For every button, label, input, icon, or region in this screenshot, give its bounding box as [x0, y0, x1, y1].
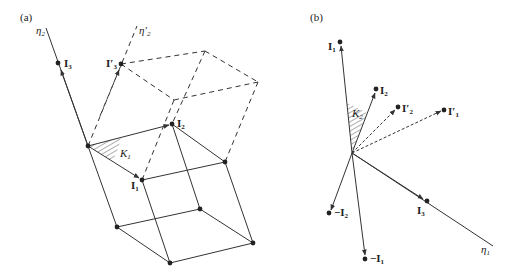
b-I3-sub: 3 — [421, 210, 425, 218]
panel-b-tag: (b) — [310, 12, 323, 23]
eta2p-sub: 2 — [147, 30, 151, 38]
I3-prime-label: I′3 — [106, 58, 117, 71]
b-I3-label: I3 — [417, 205, 425, 218]
panel-a-tag: (a) — [20, 12, 32, 23]
b-I1-label: I1 — [328, 41, 336, 54]
I1-label: I1 — [131, 180, 139, 193]
eta1-label: η1 — [481, 244, 490, 257]
b-negI1-sub: 1 — [381, 258, 385, 266]
I1-sub: 1 — [135, 185, 139, 193]
lattice-points — [56, 61, 256, 266]
K1-sub: 1 — [127, 153, 131, 161]
eta2-label: η2 — [36, 25, 45, 38]
eta2-sub: 2 — [41, 30, 45, 38]
b-I2-prime-label: I′2 — [402, 103, 413, 116]
I1-vector — [341, 46, 352, 153]
neg-I1-vector — [352, 153, 365, 255]
b-I2-sub: 2 — [384, 90, 388, 98]
I3-vector — [352, 153, 423, 199]
b-negI2-text: −I — [334, 206, 345, 218]
b-negI1-text: −I — [370, 252, 381, 264]
eta2-prime-label: η′2 — [139, 25, 150, 38]
I3-vector — [61, 70, 88, 146]
eta2p-text: η′ — [139, 24, 147, 36]
neg-I2-vector — [331, 153, 352, 210]
I3-label: I3 — [64, 58, 72, 71]
b-neg-I1-label: −I1 — [370, 253, 384, 266]
I3p-sub: 3 — [113, 63, 117, 71]
I2-label: I2 — [177, 118, 185, 131]
panel-b — [327, 40, 493, 262]
b-I1p-sub: 1 — [455, 111, 459, 119]
b-neg-I2-label: −I2 — [334, 207, 348, 220]
diagram-canvas — [0, 0, 508, 276]
b-I1-sub: 1 — [332, 46, 336, 54]
b-I2-label: I2 — [380, 85, 388, 98]
angle-K1-hatch — [88, 137, 121, 161]
b-I2p-sub: 2 — [409, 108, 413, 116]
I3-sub: 3 — [68, 63, 72, 71]
b-negI2-sub: 2 — [345, 212, 349, 220]
b-I1-prime-label: I′1 — [448, 106, 459, 119]
I2-sub: 2 — [181, 123, 185, 131]
K2-sub: 2 — [359, 113, 363, 121]
eta2-prime-axis — [88, 26, 137, 146]
K2-label: K2 — [352, 108, 363, 121]
dashed-cube — [121, 51, 258, 180]
panel-a — [46, 26, 258, 265]
vector-endpoints — [327, 40, 447, 262]
eta1-sub: 1 — [486, 249, 490, 257]
K1-label: K1 — [120, 148, 131, 161]
